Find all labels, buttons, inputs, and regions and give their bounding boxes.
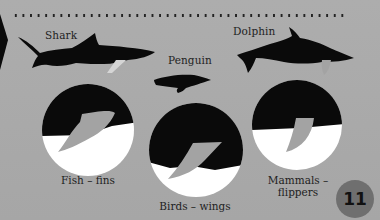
shark-label: Shark [45,29,77,41]
shark-silhouette-icon [18,33,155,73]
bird-wing-circle-icon [148,100,248,200]
book-page: Shark Penguin Dolphin Fish – fins Birds … [0,0,380,220]
dolphin-label: Dolphin [233,25,275,37]
birds-caption: Birds – wings [150,200,240,212]
page-number-badge: 11 [336,180,374,218]
mammals-caption: Mammals – flippers [258,174,338,198]
mammals-caption-line1: Mammals – [258,174,338,186]
fish-fin-circle-icon [40,80,140,180]
left-edge-arrow-icon [0,14,8,70]
mammals-caption-line2: flippers [258,186,338,198]
penguin-label: Penguin [168,54,212,66]
mammal-flipper-circle-icon [250,78,345,173]
fish-caption: Fish – fins [48,174,128,186]
penguin-silhouette-icon [154,75,211,93]
